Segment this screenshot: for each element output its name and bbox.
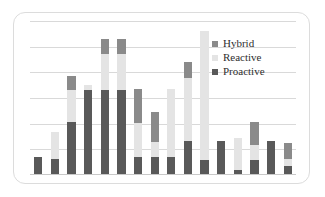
- bar-segment-proactive: [51, 159, 59, 174]
- bar-segment-proactive: [217, 141, 225, 174]
- chart-legend: Hybrid Reactive Proactive: [212, 37, 292, 79]
- bar-segment-proactive: [117, 90, 125, 174]
- bar-segment-proactive: [34, 157, 42, 174]
- bar-segment-proactive: [67, 122, 75, 174]
- bar-column: [217, 141, 225, 174]
- bar-column: [284, 143, 292, 174]
- bar-segment-hybrid: [67, 76, 75, 90]
- bar-segment-reactive: [117, 54, 125, 90]
- legend-swatch-icon: [212, 69, 218, 75]
- bar-column: [134, 89, 142, 174]
- chart-card: Hybrid Reactive Proactive: [13, 12, 310, 184]
- bar-segment-proactive: [167, 157, 175, 174]
- bar-column: [117, 39, 125, 174]
- bar-segment-hybrid: [101, 39, 109, 54]
- plot-area: Hybrid Reactive Proactive: [30, 21, 296, 175]
- bar-column: [184, 62, 192, 174]
- x-axis: [30, 174, 296, 175]
- bar-column: [84, 85, 92, 174]
- legend-label: Reactive: [223, 51, 261, 64]
- legend-item-proactive: Proactive: [212, 65, 292, 78]
- bar-segment-proactive: [151, 157, 159, 174]
- bar-segment-hybrid: [117, 39, 125, 54]
- bar-segment-reactive: [167, 89, 175, 158]
- bar-segment-reactive: [151, 142, 159, 157]
- bar-segment-hybrid: [250, 122, 258, 145]
- legend-label: Proactive: [223, 65, 265, 78]
- bar-segment-hybrid: [184, 62, 192, 79]
- bar-segment-proactive: [284, 166, 292, 174]
- bar-column: [51, 132, 59, 174]
- bar-column: [200, 31, 208, 174]
- bar-segment-proactive: [200, 160, 208, 174]
- bar-column: [151, 112, 159, 174]
- bar-segment-reactive: [200, 31, 208, 160]
- bar-column: [101, 39, 109, 174]
- bar-segment-proactive: [134, 157, 142, 174]
- bar-segment-reactive: [134, 123, 142, 157]
- bar-segment-hybrid: [284, 143, 292, 158]
- bar-column: [167, 89, 175, 174]
- bar-segment-reactive: [184, 78, 192, 140]
- bar-segment-proactive: [84, 90, 92, 174]
- bar-segment-proactive: [101, 90, 109, 174]
- legend-label: Hybrid: [223, 37, 254, 50]
- bar-segment-proactive: [250, 160, 258, 174]
- bar-column: [250, 122, 258, 174]
- bar-segment-reactive: [250, 145, 258, 160]
- legend-swatch-icon: [212, 41, 218, 47]
- bar-segment-reactive: [234, 138, 242, 170]
- bar-segment-hybrid: [134, 89, 142, 123]
- legend-item-reactive: Reactive: [212, 51, 292, 64]
- bar-segment-reactive: [51, 132, 59, 159]
- bar-segment-reactive: [67, 90, 75, 122]
- legend-swatch-icon: [212, 55, 218, 61]
- bar-segment-proactive: [267, 141, 275, 174]
- bar-segment-reactive: [284, 159, 292, 167]
- bar-segment-proactive: [184, 141, 192, 174]
- legend-item-hybrid: Hybrid: [212, 37, 292, 50]
- bar-segment-hybrid: [151, 112, 159, 143]
- bar-column: [34, 157, 42, 174]
- bar-segment-reactive: [101, 54, 109, 90]
- bar-column: [267, 141, 275, 174]
- bar-column: [67, 76, 75, 174]
- bar-column: [234, 138, 242, 174]
